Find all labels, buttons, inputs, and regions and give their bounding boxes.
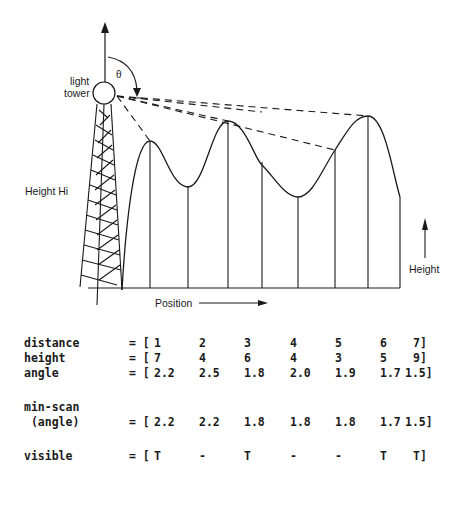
cell: 2.5 <box>199 366 220 381</box>
cell: 1 <box>154 336 161 351</box>
row-name: visible <box>24 449 72 464</box>
cell: 2.0 <box>290 366 311 381</box>
cell: 4 <box>199 351 206 366</box>
cell: 3 <box>244 336 251 351</box>
cell: 7 <box>154 351 161 366</box>
tower-lattice <box>80 104 122 305</box>
line-of-sight-diagram: θ light tower Height Hi Position <box>0 0 457 310</box>
cell: - <box>335 449 342 464</box>
cell: 1.5] <box>405 366 433 381</box>
row-visible: visible = [ T - T - - T T] <box>24 449 52 464</box>
height-arrow <box>422 218 428 258</box>
cell: T <box>380 449 387 464</box>
cell: 2 <box>199 336 206 351</box>
row-eq: = [ <box>129 415 150 430</box>
cell: 1.7 <box>380 366 401 381</box>
cell: 2.2 <box>154 415 175 430</box>
row-name: distance <box>24 336 79 351</box>
position-arrow <box>199 300 268 306</box>
row-minscan-label: min-scan <box>24 400 52 415</box>
cell: 7] <box>413 336 427 351</box>
cell: 6 <box>380 336 387 351</box>
cell: 3 <box>335 351 342 366</box>
cell: T] <box>413 449 427 464</box>
theta-label: θ <box>116 69 122 80</box>
tower-label-line2: tower <box>64 87 90 99</box>
cell: - <box>199 449 206 464</box>
cell: 1.9 <box>335 366 356 381</box>
row-name: min-scan <box>24 400 79 415</box>
cell: 6 <box>244 351 251 366</box>
row-eq: = [ <box>129 336 150 351</box>
cell: - <box>290 449 297 464</box>
cell: T <box>244 449 251 464</box>
cell: T <box>154 449 161 464</box>
cell: 1.8 <box>335 415 356 430</box>
height-hi-label: Height Hi <box>25 185 68 197</box>
sight-lines <box>117 96 368 150</box>
cell: 2.2 <box>199 415 220 430</box>
cell: 1.7 <box>380 415 401 430</box>
cell: 4 <box>290 336 297 351</box>
vertical-axis-arrow <box>101 22 109 82</box>
row-name: (angle) <box>24 415 79 430</box>
cell: 1.8 <box>244 415 265 430</box>
row-eq: = [ <box>129 449 150 464</box>
row-eq: = [ <box>129 351 150 366</box>
row-minscan: (angle) = [ 2.2 2.2 1.8 1.8 1.8 1.7 1.5] <box>24 415 52 430</box>
position-label: Position <box>155 297 193 309</box>
row-name: angle <box>24 366 59 381</box>
cell: 2.2 <box>154 366 175 381</box>
height-label: Height <box>409 263 439 275</box>
tower-label-line1: light <box>70 75 89 87</box>
row-distance: distance = [ 1 2 3 4 5 6 7] <box>24 336 52 351</box>
data-table: distance = [ 1 2 3 4 5 6 7] height = [ 7… <box>24 336 52 464</box>
terrain-curve <box>122 116 400 290</box>
cell: 1.8 <box>290 415 311 430</box>
cell: 5 <box>380 351 387 366</box>
cell: 5 <box>335 336 342 351</box>
row-height: height = [ 7 4 6 4 3 5 9] <box>24 351 52 366</box>
row-angle: angle = [ 2.2 2.5 1.8 2.0 1.9 1.7 1.5] <box>24 366 52 381</box>
cell: 1.8 <box>244 366 265 381</box>
row-eq: = [ <box>129 366 150 381</box>
cell: 4 <box>290 351 297 366</box>
light-icon <box>93 82 115 104</box>
row-name: height <box>24 351 66 366</box>
cell: 1.5] <box>405 415 433 430</box>
cell: 9] <box>413 351 427 366</box>
sample-lines <box>150 116 400 288</box>
